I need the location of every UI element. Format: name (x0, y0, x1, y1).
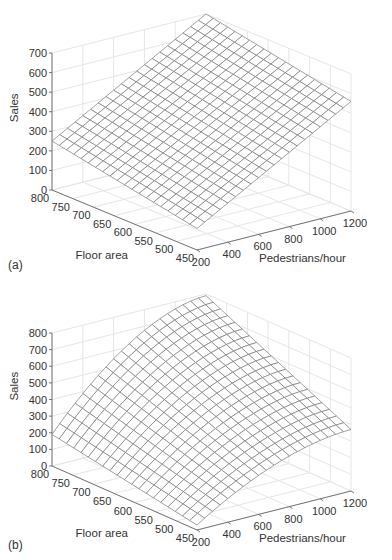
svg-text:750: 750 (52, 201, 70, 213)
svg-text:600: 600 (29, 67, 47, 79)
svg-text:200: 200 (192, 536, 210, 548)
svg-text:200: 200 (192, 256, 210, 268)
svg-text:100: 100 (29, 443, 47, 455)
z-axis-label: Sales (8, 93, 20, 122)
svg-text:750: 750 (52, 477, 70, 489)
svg-text:800: 800 (284, 513, 302, 525)
svg-text:500: 500 (155, 243, 173, 255)
y-axis-label: Floor area (76, 249, 129, 261)
svg-text:0: 0 (41, 184, 47, 196)
panel-label-a: (a) (8, 258, 23, 272)
x-axis-label: Pedestrians/hour (259, 532, 346, 544)
svg-text:400: 400 (223, 248, 241, 260)
chart-panel-a: 2004006008001000120080075070065060055050… (0, 0, 392, 280)
svg-text:600: 600 (114, 226, 132, 238)
svg-text:500: 500 (29, 86, 47, 98)
svg-text:700: 700 (29, 47, 47, 59)
svg-text:600: 600 (114, 505, 132, 517)
svg-text:600: 600 (253, 240, 271, 252)
panel-label-b: (b) (8, 538, 23, 552)
svg-text:200: 200 (29, 427, 47, 439)
svg-text:700: 700 (29, 344, 47, 356)
svg-text:1200: 1200 (343, 217, 367, 229)
svg-text:550: 550 (134, 235, 152, 247)
y-axis-label: Floor area (76, 527, 129, 539)
svg-text:200: 200 (29, 145, 47, 157)
svg-text:600: 600 (29, 360, 47, 372)
svg-text:1000: 1000 (312, 505, 336, 517)
svg-text:650: 650 (93, 218, 111, 230)
svg-text:500: 500 (29, 377, 47, 389)
svg-text:1000: 1000 (312, 225, 336, 237)
chart-panel-b: 2004006008001000120080075070065060055050… (0, 280, 392, 560)
svg-text:400: 400 (29, 394, 47, 406)
surface-plot-b: 2004006008001000120080075070065060055050… (0, 280, 392, 560)
x-axis-label: Pedestrians/hour (259, 252, 346, 264)
svg-text:400: 400 (29, 106, 47, 118)
svg-text:600: 600 (253, 520, 271, 532)
surface-mesh (52, 14, 351, 228)
surface-plot-a: 2004006008001000120080075070065060055050… (0, 0, 392, 280)
svg-text:500: 500 (155, 523, 173, 535)
svg-text:550: 550 (134, 514, 152, 526)
z-axis-label: Sales (8, 372, 20, 401)
svg-text:700: 700 (72, 209, 90, 221)
svg-text:400: 400 (223, 528, 241, 540)
svg-text:650: 650 (93, 495, 111, 507)
svg-text:700: 700 (72, 486, 90, 498)
svg-text:100: 100 (29, 164, 47, 176)
svg-text:1200: 1200 (343, 497, 367, 509)
svg-text:450: 450 (176, 532, 194, 544)
svg-text:450: 450 (176, 252, 194, 264)
svg-text:300: 300 (29, 410, 47, 422)
svg-text:0: 0 (41, 460, 47, 472)
svg-text:800: 800 (284, 233, 302, 245)
svg-text:800: 800 (29, 327, 47, 339)
surface-mesh (52, 296, 351, 525)
svg-text:300: 300 (29, 125, 47, 137)
